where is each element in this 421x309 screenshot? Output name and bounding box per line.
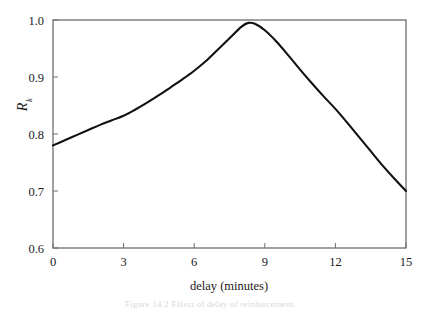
- y-axis-ticks: [53, 20, 58, 248]
- axes-border: [53, 20, 406, 248]
- x-tick-label: 0: [50, 255, 56, 269]
- plot-frame: [53, 20, 406, 248]
- y-tick-label: 0.8: [28, 128, 44, 142]
- x-axis-title: delay (minutes): [190, 279, 268, 293]
- y-tick-label: 1.0: [28, 14, 44, 28]
- y-tick-label: 0.6: [28, 242, 44, 256]
- x-tick-label: 3: [120, 255, 126, 269]
- y-axis-title: R k: [15, 98, 34, 112]
- y-axis-title-subscript: k: [24, 98, 34, 102]
- x-axis-ticks: [53, 243, 406, 248]
- y-axis-title-text: R: [15, 102, 30, 112]
- x-axis-tick-labels: 03691215: [50, 255, 412, 269]
- x-tick-label: 6: [191, 255, 197, 269]
- y-tick-label: 0.7: [28, 185, 44, 199]
- y-axis-tick-labels: 0.60.70.80.91.0: [28, 14, 44, 256]
- y-tick-label: 0.9: [28, 71, 44, 85]
- data-series-line: [53, 23, 406, 191]
- x-tick-label: 9: [262, 255, 268, 269]
- x-tick-label: 15: [400, 255, 413, 269]
- x-tick-label: 12: [329, 255, 342, 269]
- figure-caption: Figure 14.2 Effect of delay of reinforce…: [0, 299, 421, 309]
